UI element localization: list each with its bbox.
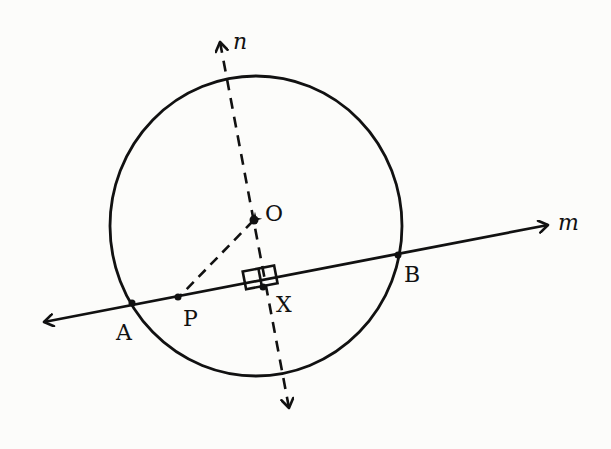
label-b: B: [404, 264, 420, 286]
line-m: [44, 225, 548, 322]
label-o: O: [265, 203, 283, 225]
point-p: [175, 294, 182, 301]
geometry-figure: [0, 0, 611, 449]
circle: [110, 76, 402, 376]
label-m: m: [558, 212, 579, 234]
point-a: [129, 300, 136, 307]
point-b: [395, 252, 402, 259]
label-n: n: [233, 31, 247, 53]
label-p: P: [183, 308, 198, 330]
label-x: X: [276, 294, 292, 316]
label-a: A: [116, 322, 132, 344]
point-x: [260, 284, 267, 291]
diagram-canvas: n m O A P X B: [0, 0, 611, 449]
point-o: [250, 216, 259, 225]
